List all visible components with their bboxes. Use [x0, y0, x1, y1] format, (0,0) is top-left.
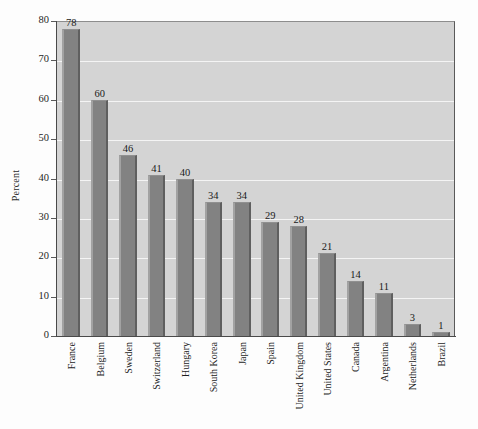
x-axis-label: United States: [313, 340, 341, 428]
y-axis-tick-label: 10: [39, 290, 50, 301]
bar[interactable]: [176, 179, 194, 337]
y-axis-title: Percent: [4, 150, 28, 220]
bar-value-label: 28: [290, 214, 308, 225]
x-axis-label: Spain: [256, 340, 284, 428]
y-axis-tick-label: 60: [39, 93, 50, 104]
bar-value-label: 78: [62, 17, 80, 28]
bar-slot: 21: [318, 21, 336, 336]
bar-slot: 78: [62, 21, 80, 336]
x-axis-label-text: Netherlands: [407, 342, 418, 390]
y-axis-tick-label: 30: [39, 211, 50, 222]
bar-value-label: 40: [176, 167, 194, 178]
y-axis-tick-label: 20: [39, 250, 50, 261]
bars-layer: 78604641403434292821141131: [57, 21, 455, 336]
bar[interactable]: [432, 332, 450, 336]
x-axis-label: Canada: [341, 340, 369, 428]
x-axis-label: Brazil: [427, 340, 455, 428]
bar[interactable]: [233, 202, 251, 336]
bar-slot: 60: [91, 21, 109, 336]
bar-value-label: 60: [91, 88, 109, 99]
bar-value-label: 34: [205, 190, 223, 201]
bar-slot: 40: [176, 21, 194, 336]
x-axis-label-text: United Kingdom: [293, 342, 304, 410]
x-axis-label: Netherlands: [398, 340, 426, 428]
bar-slot: 14: [347, 21, 365, 336]
bar-slot: 34: [233, 21, 251, 336]
x-axis-label-text: United States: [322, 342, 333, 396]
bar[interactable]: [205, 202, 223, 336]
x-axis-label: South Korea: [199, 340, 227, 428]
bar-value-label: 34: [233, 190, 251, 201]
x-axis-label-text: Canada: [350, 342, 361, 372]
bar-slot: 41: [148, 21, 166, 336]
bar[interactable]: [148, 175, 166, 336]
bar[interactable]: [318, 253, 336, 336]
bar-slot: 46: [119, 21, 137, 336]
x-axis-label-text: Brazil: [435, 342, 446, 366]
x-axis-label-text: Switzerland: [151, 342, 162, 390]
y-axis-tick-label: 80: [39, 14, 50, 25]
bar-value-label: 11: [375, 281, 393, 292]
x-axis-label-text: Japan: [236, 342, 247, 365]
x-axis-label-text: Hungary: [179, 342, 190, 377]
x-axis-labels: FranceBelgiumSwedenSwitzerlandHungarySou…: [57, 340, 455, 428]
x-axis-label: United Kingdom: [284, 340, 312, 428]
bar[interactable]: [62, 29, 80, 336]
x-axis-label: Japan: [228, 340, 256, 428]
y-axis-tick-label: 0: [44, 329, 49, 340]
bar[interactable]: [119, 155, 137, 336]
x-axis-label: France: [57, 340, 85, 428]
bar-value-label: 21: [318, 241, 336, 252]
bar-slot: 29: [261, 21, 279, 336]
y-axis: 01020304050607080: [28, 21, 57, 336]
x-axis-label: Argentina: [370, 340, 398, 428]
bar[interactable]: [404, 324, 422, 336]
bar-slot: 28: [290, 21, 308, 336]
x-axis-label: Switzerland: [142, 340, 170, 428]
bar-slot: 3: [404, 21, 422, 336]
x-axis-label: Hungary: [171, 340, 199, 428]
x-axis-label-text: Argentina: [378, 342, 389, 382]
bar-value-label: 3: [404, 312, 422, 323]
bar[interactable]: [347, 281, 365, 336]
x-axis-label-text: Sweden: [123, 342, 134, 374]
y-axis-title-label: Percent: [11, 169, 22, 200]
bar-value-label: 14: [347, 269, 365, 280]
bar-value-label: 1: [432, 320, 450, 331]
x-axis-label: Sweden: [114, 340, 142, 428]
x-axis-label-text: Spain: [265, 342, 276, 365]
y-axis-tick-label: 50: [39, 132, 50, 143]
x-axis-label-text: France: [66, 342, 77, 369]
bar[interactable]: [91, 100, 109, 336]
bar-value-label: 29: [261, 210, 279, 221]
bar-slot: 11: [375, 21, 393, 336]
bar-value-label: 46: [119, 143, 137, 154]
bar-chart: Percent 01020304050607080 78604641403434…: [0, 0, 478, 429]
bar-value-label: 41: [148, 163, 166, 174]
y-axis-tick-label: 40: [39, 172, 50, 183]
x-axis-line: [56, 336, 456, 337]
bar-slot: 1: [432, 21, 450, 336]
x-axis-label-text: Belgium: [94, 342, 105, 376]
bar[interactable]: [290, 226, 308, 336]
bar-slot: 34: [205, 21, 223, 336]
bar[interactable]: [375, 293, 393, 336]
x-axis-label-text: South Korea: [208, 342, 219, 392]
y-axis-tick-label: 70: [39, 53, 50, 64]
x-axis-label: Belgium: [85, 340, 113, 428]
bar[interactable]: [261, 222, 279, 336]
